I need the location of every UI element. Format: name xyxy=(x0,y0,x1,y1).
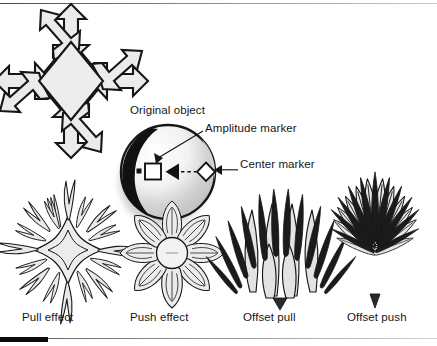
figure-illustration: Original object Amplitude marker Center … xyxy=(0,0,437,346)
caption-pull-effect: Pull effect xyxy=(22,311,73,323)
illustration-canvas xyxy=(0,0,437,346)
offset-pull-apex xyxy=(273,298,287,310)
shape-spiky-star xyxy=(0,180,138,324)
caption-push-effect: Push effect xyxy=(130,311,188,323)
callout-center-marker: Center marker xyxy=(240,158,315,170)
edge-marker[interactable] xyxy=(137,169,142,174)
bottom-rule xyxy=(0,338,437,339)
amplitude-marker-square[interactable] xyxy=(145,164,161,180)
caption-offset-pull: Offset pull xyxy=(243,311,296,323)
shape-upward-spike-cluster xyxy=(204,189,357,310)
shape-eight-arrow-star xyxy=(0,4,148,158)
shape-lobed-flower xyxy=(120,201,224,308)
callout-amplitude-marker: Amplitude marker xyxy=(205,122,297,134)
caption-offset-push: Offset push xyxy=(347,311,407,323)
callout-original-object: Original object xyxy=(130,104,205,116)
shape-upward-petal-fan xyxy=(329,172,421,308)
bottom-page-tab xyxy=(0,337,48,342)
offset-push-apex xyxy=(370,294,380,308)
